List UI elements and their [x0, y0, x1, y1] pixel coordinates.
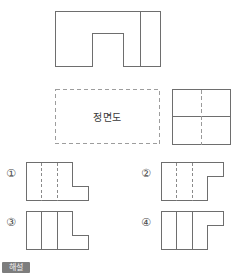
choice-2-marker: ②: [141, 168, 151, 179]
top-view-outline: [56, 12, 161, 67]
choice-4-figure: [161, 211, 224, 250]
top-view-figure: [55, 11, 161, 67]
question-page: 정면도 ① ②: [0, 0, 233, 275]
choice-3-figure: [26, 211, 89, 250]
front-view-label: 정면도: [55, 89, 160, 144]
choice-4-marker: ④: [141, 217, 151, 228]
choice-1[interactable]: ①: [6, 162, 106, 204]
choice-4[interactable]: ④: [141, 211, 233, 253]
explanation-tag[interactable]: 해설: [2, 262, 30, 273]
choice-3-svg: [26, 211, 89, 250]
side-view-figure: [172, 89, 231, 145]
choice-1-marker: ①: [6, 168, 16, 179]
choice-2-svg: [161, 162, 224, 201]
choice-3-marker: ③: [6, 217, 16, 228]
choice-4-svg: [161, 211, 224, 250]
choice-2[interactable]: ②: [141, 162, 233, 204]
front-view-placeholder: 정면도: [55, 89, 160, 144]
choice-3[interactable]: ③: [6, 211, 106, 253]
choice-2-figure: [161, 162, 224, 201]
top-view-svg: [55, 11, 161, 67]
side-view-svg: [172, 89, 231, 145]
choice-1-svg: [26, 162, 89, 201]
choice-1-figure: [26, 162, 89, 201]
